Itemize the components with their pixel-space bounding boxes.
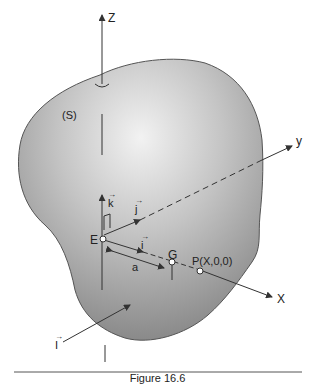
point-E [100,236,106,242]
diagram-graphics [0,0,315,384]
k-vector-label: →k [108,198,114,209]
z-axis-label: Z [108,12,115,24]
distance-a-label: a [132,262,138,273]
j-vector-label: →j [135,204,137,215]
point-G-label: G [168,249,177,261]
i-vector-label: →i [141,240,143,251]
point-P [197,268,203,274]
point-E-label: E [90,234,98,246]
figure-caption: Figure 16.6 [0,372,315,384]
point-P-label: P(X,0,0) [192,256,232,267]
y-axis-label: y [296,135,302,147]
external-vector-label: →I [55,340,58,351]
y-axis-outer [262,146,292,160]
vector-arrow-icon: → [135,197,143,205]
vector-arrow-icon: → [55,333,63,341]
diagram-canvas: Z (S) y X →k →j →i E G P(X,0,0) a →I Fig… [0,0,315,384]
body-label: (S) [62,110,77,121]
x-axis-label: X [277,293,285,305]
vector-arrow-icon: → [141,233,149,241]
vector-arrow-icon: → [108,191,116,199]
